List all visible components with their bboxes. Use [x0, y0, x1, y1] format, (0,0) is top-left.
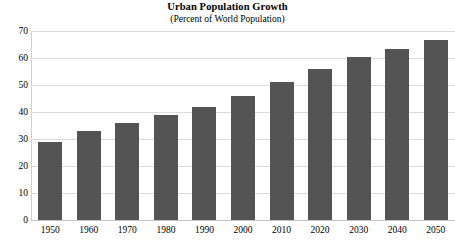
gridline-0: [31, 220, 455, 221]
chart-figure: Urban Population Growth (Percent of Worl…: [0, 0, 455, 244]
bar-2000: [231, 96, 255, 220]
x-axis-tick-label: 2020: [301, 224, 339, 236]
x-axis-tick-label: 1990: [185, 224, 223, 236]
x-axis: 1950196019701980199020002010202020302040…: [31, 224, 455, 238]
x-axis-tick-label: 1960: [70, 224, 108, 236]
y-axis-tick-label: 30: [2, 134, 28, 144]
x-axis-tick-label: 1950: [31, 224, 69, 236]
bar-series: [31, 31, 455, 220]
y-axis-tick-label: 50: [2, 80, 28, 90]
x-axis-tick-label: 2030: [340, 224, 378, 236]
y-axis-tick-label: 60: [2, 53, 28, 63]
y-axis-tick-label: 70: [2, 26, 28, 36]
bar-1990: [192, 107, 216, 220]
bar-1980: [154, 115, 178, 220]
x-axis-tick-label: 2050: [417, 224, 455, 236]
bar-1960: [77, 131, 101, 220]
y-axis-tick-label: 0: [2, 215, 28, 225]
bar-2030: [347, 57, 371, 220]
chart-subtitle: (Percent of World Population): [0, 13, 455, 25]
y-axis-tick-label: 10: [2, 188, 28, 198]
x-axis-tick-label: 2000: [224, 224, 262, 236]
chart-title-block: Urban Population Growth (Percent of Worl…: [0, 1, 455, 25]
bar-2020: [308, 69, 332, 220]
x-axis-tick-label: 2040: [378, 224, 416, 236]
bar-2010: [270, 82, 294, 220]
bar-2040: [385, 49, 409, 220]
y-axis-tick-label: 20: [2, 161, 28, 171]
page-title: Urban Population Growth: [0, 1, 455, 13]
bar-1970: [115, 123, 139, 220]
y-axis-tick-label: 40: [2, 107, 28, 117]
x-axis-tick-label: 2010: [263, 224, 301, 236]
x-axis-tick-label: 1980: [147, 224, 185, 236]
x-axis-tick-label: 1970: [108, 224, 146, 236]
y-axis: 010203040506070: [0, 31, 28, 220]
bar-2050: [424, 40, 448, 220]
bar-1950: [38, 142, 62, 220]
